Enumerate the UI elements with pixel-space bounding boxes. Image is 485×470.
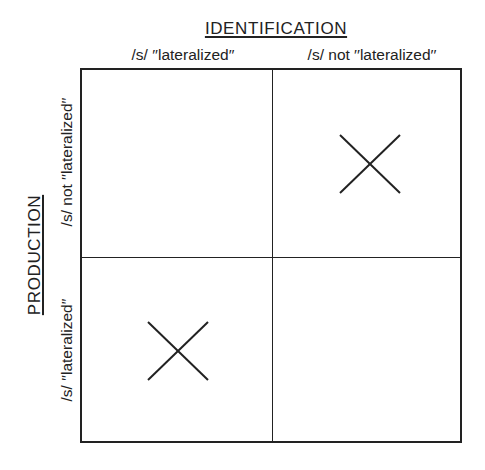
column-header-lateralized: /s/ ′′lateralized′′ [112, 46, 254, 64]
production-axis-title: PRODUCTION [25, 188, 45, 322]
identification-axis-title: IDENTIFICATION [195, 19, 357, 39]
cell-top-right [273, 70, 460, 258]
cell-bottom-left [82, 258, 273, 441]
x-mark-icon [147, 321, 209, 381]
row-header-not-lateralized: /s/ not ′′lateralized′′ [58, 72, 76, 252]
cell-bottom-right [273, 258, 460, 441]
row-header-lateralized: /s/ ′′lateralized′′ [58, 260, 76, 440]
column-header-not-lateralized: /s/ not ′′lateralized′′ [284, 46, 460, 64]
cell-top-left [82, 70, 273, 258]
x-mark-icon [339, 134, 401, 194]
matrix-grid [80, 68, 462, 443]
